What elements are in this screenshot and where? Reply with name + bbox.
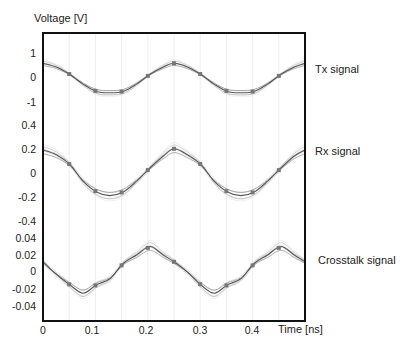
x-tick-label: 0.4 (237, 324, 267, 336)
sample-marker (198, 162, 202, 166)
y-tick-label: -1 (0, 96, 36, 108)
y-tick-label: 0 (0, 71, 36, 83)
sample-marker (251, 190, 255, 194)
y-tick-label: 0.02 (0, 249, 36, 261)
sample-marker (172, 61, 176, 65)
sample-marker (172, 260, 176, 264)
y-tick-label: 0.4 (0, 119, 36, 131)
plot-area (0, 0, 414, 356)
y-axis-label: Voltage [V] (34, 12, 87, 24)
sample-marker (120, 90, 124, 94)
sample-marker (224, 89, 228, 93)
sample-marker (224, 189, 228, 193)
sample-marker (67, 162, 71, 166)
sample-marker (146, 246, 150, 250)
sample-marker (120, 263, 124, 267)
sample-marker (93, 283, 97, 287)
x-tick-label: 0 (28, 324, 58, 336)
y-tick-label: 1 (0, 47, 36, 59)
sample-marker (93, 189, 97, 193)
sample-marker (277, 168, 281, 172)
sample-marker (146, 168, 150, 172)
sample-marker (198, 282, 202, 286)
sample-marker (277, 246, 281, 250)
sample-marker (251, 263, 255, 267)
crosstalk-signal-label: Crosstalk signal (318, 254, 396, 266)
chart: Voltage [V] Time [ns] Tx signal Rx signa… (0, 0, 414, 356)
sample-marker (93, 89, 97, 93)
x-tick-label: 0.2 (131, 324, 161, 336)
x-tick-label: 0.3 (185, 324, 215, 336)
y-tick-label: 0.04 (0, 232, 36, 244)
y-tick-label: 0 (0, 167, 36, 179)
sample-marker (277, 74, 281, 78)
sample-marker (146, 74, 150, 78)
y-tick-label: 0 (0, 265, 36, 277)
x-axis-label: Time [ns] (278, 323, 323, 335)
tx-signal-label: Tx signal (315, 63, 359, 75)
sample-marker (67, 282, 71, 286)
sample-marker (120, 190, 124, 194)
sample-marker (224, 283, 228, 287)
sample-marker (198, 72, 202, 76)
y-tick-label: -0.04 (0, 300, 36, 312)
sample-marker (172, 147, 176, 151)
sample-marker (67, 72, 71, 76)
y-tick-label: -0.4 (0, 215, 36, 227)
y-tick-label: 0.2 (0, 143, 36, 155)
x-tick-label: 0.1 (77, 324, 107, 336)
y-tick-label: -0.2 (0, 191, 36, 203)
rx-signal-label: Rx signal (315, 145, 360, 157)
y-tick-label: -0.02 (0, 283, 36, 295)
sample-marker (251, 90, 255, 94)
